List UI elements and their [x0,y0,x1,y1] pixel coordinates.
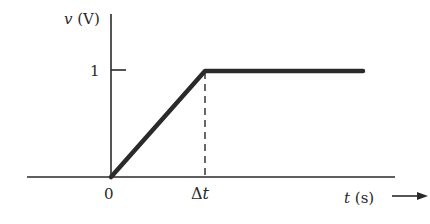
x-tick-label-0: 0 [104,185,114,203]
arrow-right-icon [417,192,428,200]
ramp-voltage-figure: v (V) 1 0 Δt t (s) [0,0,430,224]
x-axis-label: t (s) [344,189,374,207]
chart-canvas: v (V) 1 0 Δt t (s) [0,0,430,224]
x-tick-label-delta-t: Δt [191,184,210,203]
y-tick-label-1: 1 [90,62,100,80]
y-axis-label: v (V) [64,10,100,28]
voltage-ramp-curve [111,71,363,177]
